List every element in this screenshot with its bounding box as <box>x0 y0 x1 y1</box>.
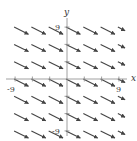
vector-arrow <box>101 27 115 34</box>
vector-arrow <box>83 96 97 103</box>
vector-arrow <box>66 44 80 51</box>
vector-arrow <box>118 27 125 31</box>
x-max-tick-label: 9 <box>116 85 121 94</box>
vector-arrow <box>101 131 115 138</box>
vector-arrow <box>118 96 125 100</box>
vector-field-plot: x y -9 9 9 -9 <box>0 0 137 141</box>
vector-arrow <box>49 79 63 86</box>
vector-arrow <box>14 62 28 69</box>
vector-arrow <box>83 114 97 121</box>
vector-arrow <box>66 27 80 34</box>
vector-arrow <box>14 79 28 86</box>
y-axis-label: y <box>63 7 70 17</box>
vector-arrow <box>14 27 28 34</box>
vector-arrow <box>49 62 63 69</box>
vector-arrow <box>14 114 28 121</box>
vector-arrow <box>31 27 45 34</box>
vector-arrow <box>31 79 45 86</box>
vector-arrow <box>66 114 80 121</box>
vector-arrow <box>83 27 97 34</box>
vector-arrow <box>83 44 97 51</box>
vector-arrow <box>118 44 125 48</box>
vector-arrow <box>66 131 80 138</box>
vector-arrow <box>49 44 63 51</box>
vector-arrow <box>31 62 45 69</box>
vector-arrow <box>83 62 97 69</box>
vector-arrow <box>31 44 45 51</box>
vector-arrow <box>14 96 28 103</box>
vector-arrow <box>118 62 125 66</box>
vector-arrow <box>14 44 28 51</box>
vector-arrow <box>66 96 80 103</box>
vector-arrow <box>66 79 80 86</box>
vector-arrow <box>101 79 115 86</box>
vector-arrow <box>101 114 115 121</box>
x-min-tick-label: -9 <box>7 85 15 94</box>
y-min-tick-label: -9 <box>52 127 60 136</box>
vector-arrow <box>83 131 97 138</box>
vector-arrow <box>101 96 115 103</box>
vector-arrow <box>49 96 63 103</box>
vector-arrow <box>101 44 115 51</box>
vector-arrow <box>31 96 45 103</box>
x-axis-label: x <box>131 73 136 83</box>
y-max-tick-label: 9 <box>55 23 60 32</box>
vector-arrow <box>31 131 45 138</box>
vector-arrow <box>118 131 125 135</box>
vector-arrow <box>118 114 125 118</box>
vector-arrow <box>31 114 45 121</box>
vector-arrow <box>101 62 115 69</box>
vector-arrow <box>14 131 28 138</box>
vector-arrow <box>83 79 97 86</box>
vector-arrows <box>14 27 125 138</box>
vector-arrow <box>49 114 63 121</box>
vector-arrow <box>66 62 80 69</box>
